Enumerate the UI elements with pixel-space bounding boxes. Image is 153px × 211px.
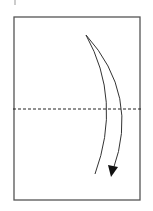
fold-diagram — [0, 0, 153, 211]
